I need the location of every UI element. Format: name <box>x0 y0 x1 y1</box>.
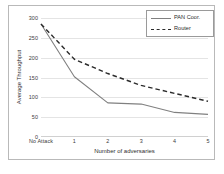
x-tick-label-no-attack: No Attack <box>29 139 53 144</box>
legend-label-pan-coor: PAN Coor. <box>174 15 200 21</box>
x-tick-label-2: 2 <box>106 139 109 144</box>
y-tick-label-300: 300 <box>4 16 38 21</box>
x-axis-title: Number of adversaries <box>41 148 208 154</box>
y-tick-label-150: 150 <box>4 76 38 81</box>
legend-item-router: Router <box>151 25 191 33</box>
legend: PAN Coor. Router <box>146 10 214 37</box>
y-tick-label-50: 50 <box>4 115 38 120</box>
legend-key-solid-icon <box>151 14 171 22</box>
x-tick-label-5: 5 <box>206 139 209 144</box>
legend-label-router: Router <box>174 26 191 32</box>
y-tick-label-200: 200 <box>4 56 38 61</box>
y-axis-ticks: 300 250 200 150 100 50 0 <box>0 18 38 137</box>
chart-container: Average Throughput 300 250 200 150 100 5… <box>0 0 224 174</box>
x-tick-label-4: 4 <box>173 139 176 144</box>
series-line-pan-coor <box>41 24 208 114</box>
y-tick-label-250: 250 <box>4 36 38 41</box>
x-tick-label-3: 3 <box>140 139 143 144</box>
legend-item-pan-coor: PAN Coor. <box>151 14 200 22</box>
legend-key-dashed-icon <box>151 25 171 33</box>
x-tick-label-1: 1 <box>73 139 76 144</box>
y-tick-label-100: 100 <box>4 95 38 100</box>
